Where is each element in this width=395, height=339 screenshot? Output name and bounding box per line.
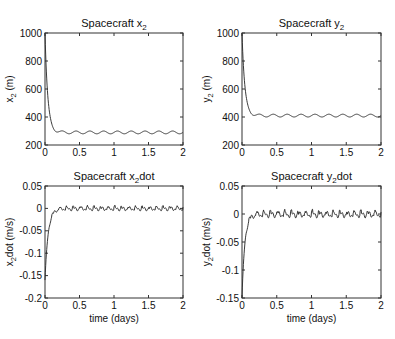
ticks: 00.511.52-0.15-0.1-0.0500.05 [216,181,384,312]
y-axis-label: x2dot (m/s) [4,218,18,267]
y-tick-label: 800 [222,56,239,67]
y-tick-label: 600 [222,84,239,95]
x-axis-label: time (days) [89,313,138,324]
x-tick-label: 0.5 [270,300,284,311]
y-tick-label: 200 [25,140,42,151]
x-tick-label: 1 [111,300,117,311]
x-tick-label: 2 [378,300,384,311]
y-tick-label: -0.15 [216,293,239,304]
y-tick-label: 400 [222,112,239,123]
x-tick-label: 1.5 [339,147,353,158]
y-tick-label: 0 [233,209,239,220]
y-tick-label: 800 [25,56,42,67]
y-tick-label: 1000 [20,28,43,39]
y-axis-label: y2 (m) [201,76,215,103]
y-tick-label: -0.1 [222,265,240,276]
plot-frame [45,33,183,145]
figure: Spacecraft x2x2 (m)00.511.52200400600800… [0,0,395,339]
y-tick-label: -0.2 [25,293,43,304]
y-tick-label: -0.05 [19,225,42,236]
y-tick-label: 600 [25,84,42,95]
plot-frame [45,186,183,298]
chart-y2dot: Spacecraft y2doty2dot (m/s)time (days)00… [201,170,384,324]
chart-y2: Spacecraft y2y2 (m)00.511.52200400600800… [201,17,384,158]
chart-title: Spacecraft x2 [81,17,147,32]
plot-frame [242,186,381,298]
x-tick-label: 0 [239,147,245,158]
x-tick-label: 1.5 [339,300,353,311]
x-tick-label: 2 [378,147,384,158]
y-tick-label: 1000 [217,28,240,39]
x-tick-label: 0.5 [270,147,284,158]
y-tick-label: -0.15 [19,270,42,281]
y-axis-label: y2dot (m/s) [201,218,215,267]
x-tick-label: 1 [111,147,117,158]
data-line [242,33,381,117]
data-line [45,205,183,280]
chart-title: Spacecraft y2 [279,17,345,32]
y-tick-label: 200 [222,140,239,151]
x-tick-label: 1 [309,147,315,158]
x-tick-label: 0 [239,300,245,311]
plot-frame [242,33,381,145]
x-tick-label: 1.5 [142,300,156,311]
caption-cutoff [0,330,395,339]
x-tick-label: 1.5 [142,147,156,158]
chart-x2dot: Spacecraft x2dotx2dot (m/s)time (days)00… [4,170,186,324]
x-tick-label: 1 [309,300,315,311]
y-tick-label: 0.05 [23,181,43,192]
y-tick-label: 0.05 [220,181,240,192]
x-tick-label: 0 [42,147,48,158]
x-axis-label: time (days) [287,313,336,324]
x-tick-label: 2 [180,300,186,311]
data-line [45,33,183,134]
y-tick-label: -0.05 [216,237,239,248]
y-tick-label: 400 [25,112,42,123]
data-line [242,209,381,298]
y-tick-label: 0 [36,203,42,214]
y-tick-label: -0.1 [25,248,43,259]
chart-x2: Spacecraft x2x2 (m)00.511.52200400600800… [4,17,186,158]
x-tick-label: 0.5 [73,300,87,311]
x-tick-label: 0.5 [73,147,87,158]
ticks: 00.511.52-0.2-0.15-0.1-0.0500.05 [19,181,186,312]
chart-title: Spacecraft x2dot [74,170,155,185]
x-tick-label: 0 [42,300,48,311]
chart-title: Spacecraft y2dot [271,170,352,185]
y-axis-label: x2 (m) [4,76,18,103]
x-tick-label: 2 [180,147,186,158]
